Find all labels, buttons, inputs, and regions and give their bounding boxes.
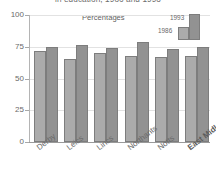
y-tick-label-100: 100: [11, 11, 24, 19]
y-axis-labels: 100 75 50 25 0: [0, 15, 24, 143]
bar-1986: [34, 51, 46, 142]
bar-1986: [94, 53, 106, 142]
bar-1986: [185, 56, 197, 142]
bar-1993: [76, 45, 88, 142]
x-axis-labels: DerbyLeicsLincsNorthantsNottsEast Midlan…: [29, 145, 210, 195]
bar-1993: [106, 48, 118, 142]
y-tick-label-25: 25: [15, 106, 24, 114]
bar-group: [64, 15, 88, 142]
legend-label-1993: 1993: [170, 15, 184, 21]
y-tick-label-75: 75: [15, 43, 24, 51]
chart-title: in education, 1986 and 1993: [0, 0, 216, 4]
chart-legend: 1993 1986: [158, 14, 208, 44]
bar-group: [34, 15, 58, 142]
bar-group: [94, 15, 118, 142]
legend-swatch-1986: [178, 27, 189, 40]
y-tick-label-0: 0: [20, 138, 24, 146]
bar-group: [125, 15, 149, 142]
bar-chart: in education, 1986 and 1993 Percentages …: [0, 0, 216, 195]
y-tick-label-50: 50: [15, 75, 24, 83]
bar-1993: [167, 49, 179, 142]
legend-label-1986: 1986: [158, 28, 172, 34]
bar-1986: [64, 59, 76, 142]
legend-swatch-1993: [189, 14, 200, 40]
bar-1986: [125, 56, 137, 142]
bar-1993: [46, 47, 58, 142]
